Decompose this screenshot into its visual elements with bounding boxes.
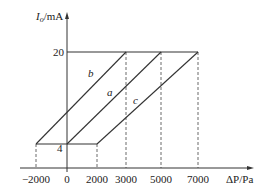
x-axis-label: ΔP/Pa: [226, 173, 253, 185]
series-label-a: a: [107, 86, 113, 98]
y-axis-arrow-icon: [65, 12, 69, 19]
y-tick-4: 4: [57, 142, 63, 154]
chart-svg: b a c Io/mA 20 4 −2000 0 2000 3000 5000 …: [0, 0, 275, 194]
y-tick-20: 20: [53, 46, 65, 58]
series-label-b: b: [88, 67, 94, 79]
x-axis-arrow-icon: [247, 166, 254, 170]
series-label-c: c: [133, 94, 138, 106]
x-ticks: −2000 0 2000 3000 5000 7000: [22, 173, 210, 185]
x-tick-neg2000: −2000: [22, 173, 51, 185]
series-lines: [36, 52, 198, 144]
x-tick-0: 0: [64, 173, 70, 185]
y-axis-label: Io/mA: [35, 10, 63, 24]
x-tick-2000: 2000: [86, 173, 109, 185]
limit-lines: [36, 52, 198, 144]
x-tick-5000: 5000: [150, 173, 173, 185]
x-tick-7000: 7000: [187, 173, 210, 185]
x-tick-3000: 3000: [115, 173, 138, 185]
